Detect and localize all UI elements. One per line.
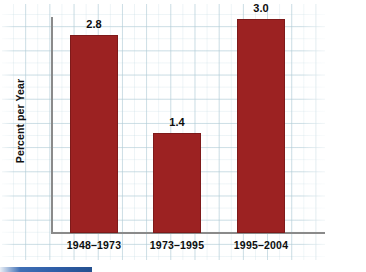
bar-1948-1973	[70, 35, 118, 233]
x-axis-category-label-2: 1973–1995	[139, 239, 215, 251]
chart-figure: Percent per Year 2.8 1.4 3.0 1948–1973 1…	[0, 0, 366, 272]
side-annotations: NOTE: Data pertain to the nonfarm busine…	[322, 0, 366, 272]
bar-1995-2004	[237, 19, 285, 233]
bar-chart-plot-area: Percent per Year 2.8 1.4 3.0 1948–1973 1…	[0, 0, 366, 272]
bar-value-label-1948-1973: 2.8	[70, 18, 118, 30]
bar-value-label-1995-2004: 3.0	[237, 2, 285, 14]
bottom-accent-bar	[0, 267, 92, 272]
bar-1973-1995	[153, 133, 201, 233]
y-axis-line	[51, 17, 53, 234]
bar-value-label-1973-1995: 1.4	[153, 116, 201, 128]
x-axis-category-label-1: 1948–1973	[56, 239, 132, 251]
y-axis-title: Percent per Year	[14, 76, 26, 166]
x-axis-category-label-3: 1995–2004	[223, 239, 299, 251]
